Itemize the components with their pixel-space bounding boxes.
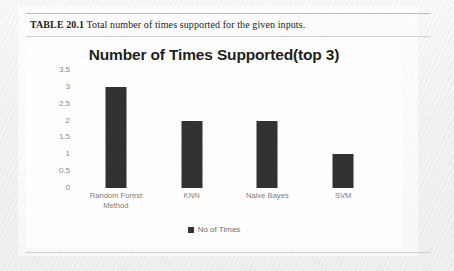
chart-title: Number of Times Supported(top 3) — [26, 46, 402, 64]
bar-series — [78, 70, 381, 188]
y-axis-tick: 2.5 — [59, 100, 70, 108]
y-axis-tick: 0 — [66, 184, 70, 192]
bar — [105, 87, 126, 188]
bar — [181, 121, 202, 188]
caption-rule-bottom — [26, 36, 430, 37]
figure-page: TABLE 20.1 Total number of times support… — [0, 0, 454, 271]
bar-slot — [78, 70, 154, 188]
x-axis-label: SVM — [305, 191, 381, 201]
x-axis-label: Naive Bayes — [230, 191, 306, 201]
bar-slot — [305, 70, 381, 188]
bar-slot — [230, 70, 306, 188]
caption-label: TABLE 20.1 — [30, 19, 84, 30]
table-caption: TABLE 20.1 Total number of times support… — [30, 18, 430, 32]
y-axis-tick: 3.5 — [59, 66, 70, 74]
y-axis: 3.532.521.510.50 — [26, 66, 74, 192]
legend-label: No of Times — [198, 226, 241, 234]
y-axis-tick: 0.5 — [59, 167, 70, 175]
x-axis-label: Random ForestMethod — [78, 191, 154, 210]
chart-legend: No of Times — [26, 226, 402, 234]
bar-slot — [154, 70, 230, 188]
y-axis-tick: 3 — [66, 83, 70, 91]
bar — [333, 154, 354, 188]
figure-rule-bottom — [26, 252, 430, 253]
bar-chart: Number of Times Supported(top 3) 3.532.5… — [26, 40, 402, 248]
caption-rule-top — [26, 13, 430, 14]
y-axis-tick: 1 — [66, 150, 70, 158]
bar — [257, 121, 278, 188]
x-axis-label: KNN — [154, 191, 230, 201]
legend-swatch — [188, 227, 194, 233]
x-axis-labels: Random ForestMethodKNNNaive BayesSVM — [78, 191, 381, 225]
caption-text: Total number of times supported for the … — [87, 19, 306, 30]
y-axis-tick: 1.5 — [59, 133, 70, 141]
y-axis-tick: 2 — [66, 117, 70, 125]
